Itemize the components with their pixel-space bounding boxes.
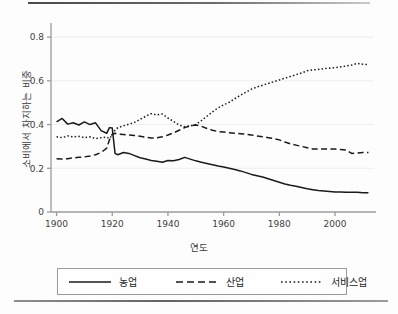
legend-item-agriculture: 농업: [58, 269, 137, 294]
figure-page: 00.20.40.60.8190019201940196019802000 소비…: [0, 0, 398, 314]
series-line-dashed: [57, 125, 369, 159]
legend-item-industry: 산업: [137, 269, 244, 294]
bottom-horizontal-rule: [14, 300, 388, 302]
legend-label-agriculture: 농업: [119, 274, 137, 289]
y-axis-tick-label: 0.8: [30, 32, 45, 42]
chart-figure: 00.20.40.60.8190019201940196019802000 소비…: [0, 8, 398, 296]
series-line-dotted: [57, 63, 369, 138]
legend-item-services: 서비스업: [244, 269, 367, 294]
x-axis-title: 연도: [0, 240, 398, 254]
line-chart: 00.20.40.60.8190019201940196019802000: [0, 8, 398, 258]
x-axis-tick-label: 1940: [156, 219, 179, 229]
x-axis-tick-label: 1920: [101, 219, 124, 229]
legend-swatch-solid: [68, 277, 112, 287]
x-axis-tick-label: 1980: [268, 219, 291, 229]
legend-label-services: 서비스업: [331, 274, 367, 289]
x-axis-tick-label: 2000: [324, 219, 347, 229]
top-horizontal-rule: [28, 2, 370, 4]
legend-swatch-dashed: [175, 277, 219, 287]
legend-swatch-dotted: [280, 277, 324, 287]
x-axis-tick-label: 1900: [45, 219, 68, 229]
plot-area-wrapper: 00.20.40.60.8190019201940196019802000 소비…: [0, 8, 398, 258]
y-axis-tick-label: 0: [38, 207, 44, 217]
y-axis-title: 소비에서 차지하는 비중: [19, 44, 33, 194]
legend-label-industry: 산업: [226, 274, 244, 289]
x-axis-tick-label: 1960: [212, 219, 235, 229]
chart-legend: 농업 산업 서비스업: [57, 268, 347, 295]
